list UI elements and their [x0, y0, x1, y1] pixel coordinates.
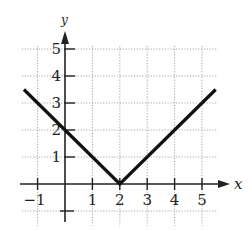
x-tick-label: 5	[197, 191, 207, 209]
x-tick-label: 4	[170, 191, 180, 209]
x-tick-label: 1	[88, 191, 98, 209]
y-tick-label: 4	[51, 67, 61, 85]
y-axis-label: y	[60, 13, 68, 27]
y-tick-label: 1	[51, 148, 61, 166]
y-axis-arrow-icon	[61, 31, 69, 44]
x-tick-label: 2	[115, 191, 125, 209]
absolute-value-graph: −11234512345 x y	[0, 0, 252, 231]
x-tick-label: −1	[24, 191, 46, 209]
x-tick-label: 3	[142, 191, 152, 209]
y-tick-label: 5	[51, 40, 61, 58]
x-axis-label: x	[234, 175, 243, 193]
y-tick-label: 3	[51, 94, 61, 112]
x-axis-arrow-icon	[218, 180, 230, 188]
